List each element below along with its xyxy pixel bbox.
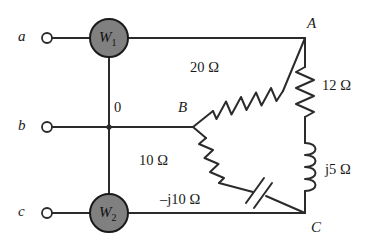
wire-cap-to-C xyxy=(266,196,305,213)
resistor-12ohm-label: 12 Ω xyxy=(322,78,351,93)
node-label-B: B xyxy=(178,100,187,115)
resistor-10ohm-label: 10 Ω xyxy=(139,153,168,168)
wattmeter-w1-letter: W xyxy=(99,29,112,45)
node-label-zero: 0 xyxy=(114,100,121,115)
node-label-C: C xyxy=(311,220,321,235)
terminal-circle-b xyxy=(42,122,52,132)
circuit-diagram-canvas: a b c W1 W2 0 A B C 20 Ω 12 Ω j5 Ω 10 Ω … xyxy=(0,0,379,250)
wattmeter-w1-subscript: 1 xyxy=(112,37,117,48)
terminal-circle-a xyxy=(42,33,52,43)
wire-B-to-r10 xyxy=(193,127,206,138)
resistor-12ohm-zigzag xyxy=(296,67,314,117)
inductor-j5-label: j5 Ω xyxy=(325,162,351,177)
terminal-label-a: a xyxy=(18,29,26,44)
capacitor-negj10-label: –j10 Ω xyxy=(160,192,200,207)
terminal-label-b: b xyxy=(18,118,26,133)
node-label-A: A xyxy=(307,16,316,31)
wattmeter-w2-subscript: 2 xyxy=(112,212,117,223)
wattmeter-w2-letter: W xyxy=(99,204,112,220)
resistor-20ohm-label: 20 Ω xyxy=(190,60,219,75)
inductor-j5-coil xyxy=(305,143,316,191)
wire-B-to-r20 xyxy=(193,111,213,127)
resistor-10ohm-zigzag xyxy=(199,138,224,183)
wire-r20-to-A xyxy=(283,38,305,91)
wattmeter-w1-label: W1 xyxy=(99,30,117,48)
wire-r10-to-cap xyxy=(219,183,253,192)
circuit-schematic-svg xyxy=(0,0,379,250)
junction-dot-zero xyxy=(106,124,111,129)
wattmeter-w2-label: W2 xyxy=(99,205,117,223)
terminal-circle-c xyxy=(42,208,52,218)
terminal-label-c: c xyxy=(18,204,25,219)
resistor-20ohm-zigzag xyxy=(213,88,283,119)
